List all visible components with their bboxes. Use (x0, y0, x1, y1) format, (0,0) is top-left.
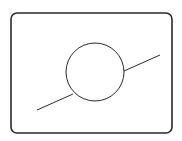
diagram-canvas (0, 0, 182, 141)
line-segment-left (37, 94, 73, 110)
line-segment-right (124, 55, 160, 71)
circle-shape (66, 43, 124, 101)
screen-frame (11, 13, 172, 133)
